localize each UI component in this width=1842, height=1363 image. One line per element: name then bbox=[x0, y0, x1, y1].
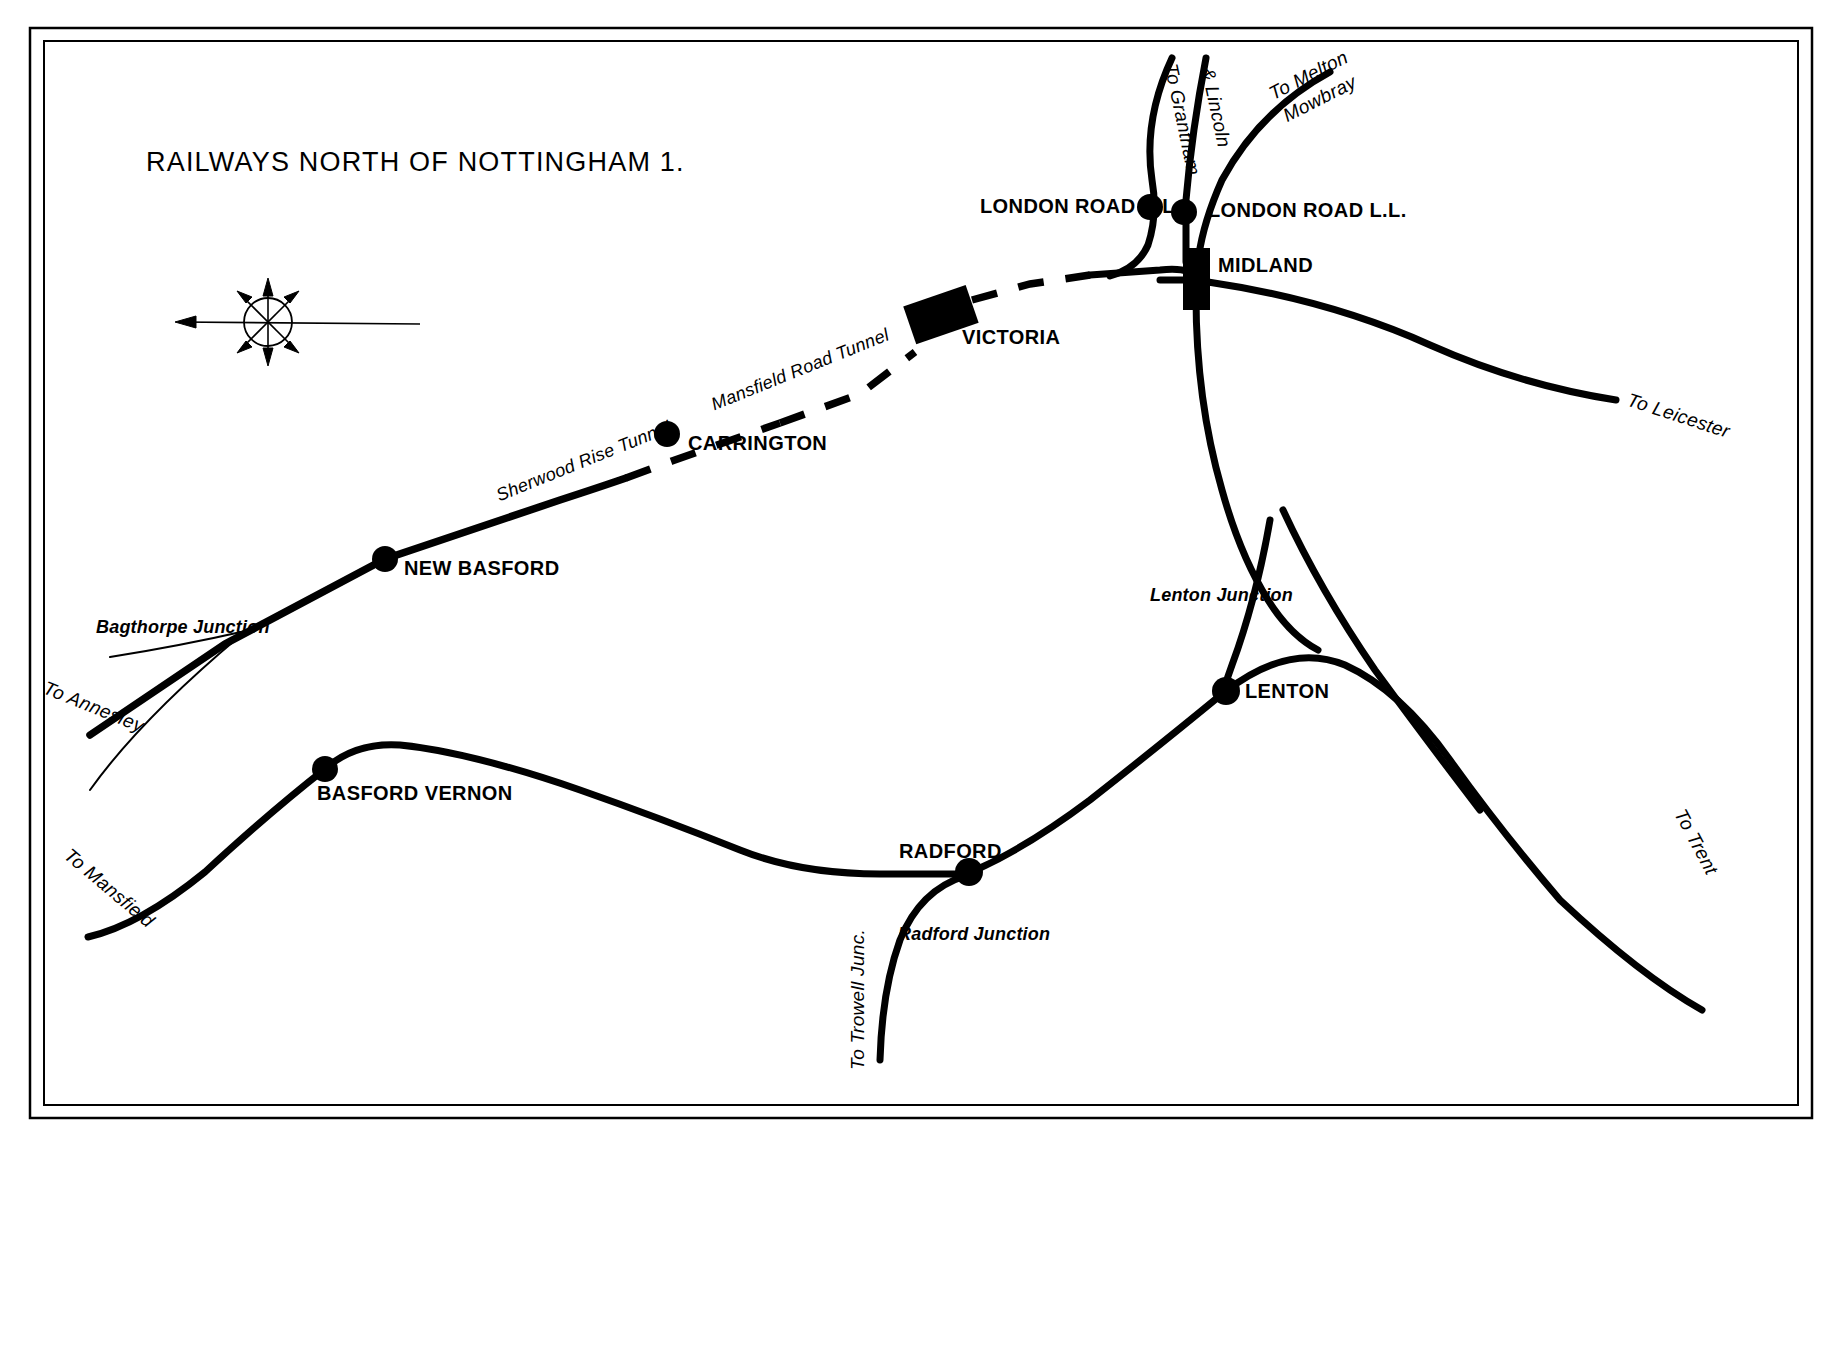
junction-label-lenton: Lenton Junction bbox=[1150, 586, 1293, 604]
station-label-basford-vernon: BASFORD VERNON bbox=[317, 783, 513, 803]
victoria-to-midland-link bbox=[1090, 269, 1188, 275]
station-box-midland bbox=[1183, 248, 1210, 310]
station-label-radford: RADFORD bbox=[899, 841, 1002, 861]
station-dot-basford-vernon bbox=[312, 756, 338, 782]
station-label-new-basford: NEW BASFORD bbox=[404, 558, 560, 578]
station-dot-new-basford bbox=[372, 546, 398, 572]
radford-to-mansfield-line bbox=[88, 745, 962, 937]
london-road-hl-line bbox=[1110, 58, 1172, 276]
lenton-to-trent-line bbox=[1226, 658, 1702, 1010]
station-label-midland: MIDLAND bbox=[1218, 255, 1313, 275]
page-title: RAILWAYS NORTH OF NOTTINGHAM 1. bbox=[146, 149, 685, 176]
page-border bbox=[30, 28, 1812, 1118]
radford-junction-to-trowell-line bbox=[880, 876, 965, 1060]
lenton-to-radford-line bbox=[980, 694, 1222, 868]
station-label-carrington: CARRINGTON bbox=[688, 433, 827, 453]
midland-to-leicester-line bbox=[1208, 282, 1616, 400]
station-label-london-road-hl: LONDON ROAD H.L. bbox=[980, 196, 1181, 216]
station-dot-radford bbox=[955, 858, 983, 886]
railway-map-canvas bbox=[0, 0, 1842, 1363]
station-dot-lenton bbox=[1212, 677, 1240, 705]
railway-map: RAILWAYS NORTH OF NOTTINGHAM 1. LONDON R… bbox=[0, 0, 1842, 1363]
station-label-lenton: LENTON bbox=[1245, 681, 1329, 701]
station-label-london-road-ll: LONDON ROAD L.L. bbox=[1208, 200, 1407, 220]
compass-rose bbox=[175, 278, 420, 366]
junction-label-bagthorpe: Bagthorpe Junction bbox=[96, 618, 270, 636]
junction-label-radford: Radford Junction bbox=[898, 925, 1050, 943]
destination-label-to-trowell-junc: To Trowell Junc. bbox=[848, 929, 867, 1070]
station-label-victoria: VICTORIA bbox=[962, 327, 1060, 347]
